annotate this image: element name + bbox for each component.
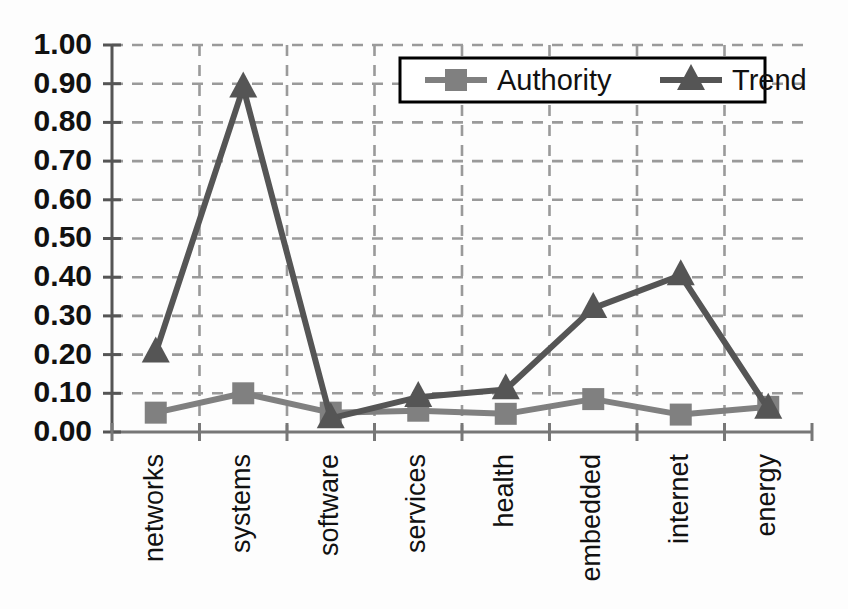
- x-axis-tick-label: networks: [139, 454, 169, 562]
- y-axis-tick-label: 0.90: [34, 66, 92, 99]
- x-axis-tick-label: health: [489, 454, 519, 528]
- y-axis-tick-label: 1.00: [34, 27, 92, 60]
- y-axis-tick-label: 0.20: [34, 337, 92, 370]
- chart-canvas: 0.000.100.200.300.400.500.600.700.800.90…: [0, 0, 848, 609]
- x-axis-tick-label: systems: [226, 454, 256, 553]
- square-marker-icon: [670, 404, 692, 426]
- line-chart: 0.000.100.200.300.400.500.600.700.800.90…: [0, 0, 848, 609]
- square-marker-icon: [582, 388, 604, 410]
- y-axis-tick-label: 0.00: [34, 414, 92, 447]
- x-axis-tick-label: embedded: [576, 454, 606, 582]
- y-axis-tick-label: 0.50: [34, 220, 92, 253]
- x-axis-tick-label: internet: [664, 454, 694, 545]
- x-axis-tick-label: energy: [751, 454, 781, 537]
- y-axis-tick-label: 0.10: [34, 375, 92, 408]
- chart-legend: AuthorityTrend: [400, 58, 807, 102]
- x-axis-tick-label: services: [401, 454, 431, 553]
- square-marker-icon: [495, 403, 517, 425]
- y-axis-tick-label: 0.60: [34, 182, 92, 215]
- y-axis-tick-labels: 0.000.100.200.300.400.500.600.700.800.90…: [34, 27, 92, 447]
- y-axis-tick-label: 0.80: [34, 104, 92, 137]
- y-axis-tick-label: 0.30: [34, 298, 92, 331]
- y-axis-tick-label: 0.40: [34, 259, 92, 292]
- square-marker-icon: [232, 382, 254, 404]
- square-marker-icon: [445, 69, 467, 91]
- x-axis-tick-label: software: [314, 454, 344, 556]
- square-marker-icon: [145, 402, 167, 424]
- legend-label: Authority: [497, 64, 612, 96]
- y-axis-tick-label: 0.70: [34, 143, 92, 176]
- legend-label: Trend: [732, 64, 807, 96]
